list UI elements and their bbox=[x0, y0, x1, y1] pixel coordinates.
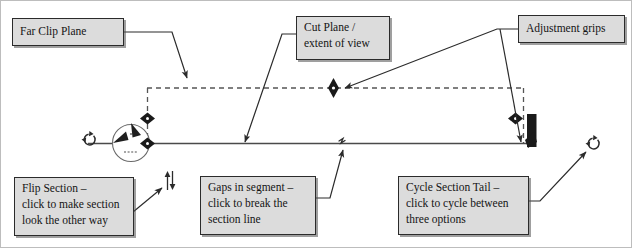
gap-break-icon[interactable] bbox=[339, 139, 345, 144]
grip-cut-plane-center bbox=[332, 86, 335, 89]
grip-head-center bbox=[146, 142, 149, 145]
flip-arrow-head-down bbox=[170, 184, 176, 190]
leader-cut-plane bbox=[245, 34, 296, 142]
grip-far-clip-left-center bbox=[146, 117, 149, 120]
grip-far-clip-left[interactable] bbox=[140, 113, 155, 125]
rotate-icon-right[interactable] bbox=[586, 135, 600, 149]
gap-break-zigzag[interactable] bbox=[339, 139, 345, 144]
grip-cut-plane-vertical[interactable] bbox=[328, 78, 339, 98]
leader-gaps-in-segment bbox=[316, 150, 343, 198]
callout-cut-plane[interactable]: Cut Plane / extent of view bbox=[296, 16, 390, 60]
leader-far-clip-plane bbox=[124, 32, 187, 78]
section-head-dot bbox=[130, 133, 132, 135]
callout-far-clip-plane[interactable]: Far Clip Plane bbox=[12, 18, 124, 46]
diagram-canvas: Far Clip Plane Cut Plane / extent of vie… bbox=[0, 0, 633, 249]
callout-cycle-section-tail[interactable]: Cycle Section Tail – click to cycle betw… bbox=[398, 176, 529, 235]
callout-adjustment-grips[interactable]: Adjustment grips bbox=[518, 15, 625, 43]
callout-gaps-in-segment[interactable]: Gaps in segment – click to break the sec… bbox=[200, 176, 316, 235]
flip-arrow-head-up bbox=[165, 171, 171, 177]
far-clip-plane-outline bbox=[147, 88, 524, 144]
leader-flip-section bbox=[133, 188, 162, 212]
section-tail-icon[interactable] bbox=[525, 114, 537, 148]
flip-vertical-arrows-icon[interactable] bbox=[165, 171, 176, 190]
rotate-right-arrowhead bbox=[593, 135, 598, 140]
callout-flip-section[interactable]: Flip Section – click to make section loo… bbox=[14, 177, 134, 236]
rotate-left-arrowhead bbox=[89, 131, 94, 136]
leader-adjustment-grips-right bbox=[500, 29, 521, 142]
